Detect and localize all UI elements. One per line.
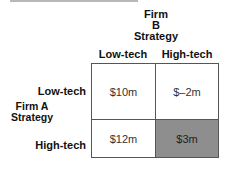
payoff-cell-high-low: $12m [92, 120, 156, 157]
column-player-line: Strategy [126, 31, 186, 42]
row-player-label: Firm A Strategy [8, 101, 56, 123]
column-header-high-tech: High-tech [155, 48, 219, 60]
column-header-low-tech: Low-tech [91, 48, 155, 60]
payoff-cell-high-high-highlighted: $3m [156, 120, 218, 157]
payoff-cell-low-low: $10m [92, 64, 156, 120]
column-player-label: Firm B Strategy [126, 9, 186, 42]
row-header-high-tech: High-tech [0, 139, 86, 151]
row-player-line: Strategy [8, 112, 56, 123]
payoff-cell-low-high: $–2m [156, 64, 218, 120]
payoff-grid: $10m $–2m $12m $3m [91, 63, 219, 158]
row-header-low-tech: Low-tech [0, 85, 86, 97]
top-rule [10, 0, 138, 2]
